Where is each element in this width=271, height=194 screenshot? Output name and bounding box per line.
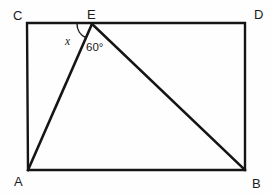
vertex-label-a: A [14, 174, 23, 189]
segment-e-to-a [28, 24, 92, 170]
geometry-figure: C E D A B x 60° [0, 0, 271, 194]
vertex-label-b: B [252, 176, 261, 191]
angle-label-x: x [64, 35, 71, 47]
vertex-label-e: E [87, 7, 96, 22]
angle-arc-x [77, 24, 86, 38]
vertex-label-c: C [13, 8, 22, 23]
angle-label-60-degrees: 60° [86, 41, 103, 53]
segment-e-to-b [92, 24, 245, 170]
geometry-diagram-canvas: C E D A B x 60° [0, 0, 271, 194]
vertex-label-d: D [254, 7, 263, 22]
